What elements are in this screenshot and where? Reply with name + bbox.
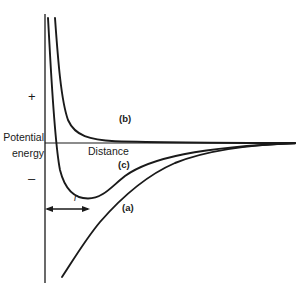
- separation-arrow: [45, 206, 90, 212]
- curve-label-a: (a): [122, 203, 134, 213]
- y-axis-label: Potential energy: [0, 129, 44, 161]
- curve-attractive-a: [62, 143, 295, 277]
- potential-energy-figure: Potential energy Distance + – r (a) (b) …: [0, 0, 299, 290]
- separation-label: r: [74, 193, 77, 203]
- positive-energy-sign: +: [28, 90, 36, 103]
- plot-canvas: [0, 0, 299, 290]
- y-axis-label-line1: Potential: [0, 129, 44, 145]
- negative-energy-sign: –: [28, 172, 35, 185]
- x-axis-label: Distance: [88, 146, 129, 157]
- y-axis-label-line2: energy: [0, 145, 44, 161]
- curve-label-c: (c): [118, 160, 130, 170]
- curve-repulsive-b: [55, 18, 295, 143]
- curve-label-b: (b): [119, 114, 131, 124]
- curve-resultant-c: [48, 18, 295, 199]
